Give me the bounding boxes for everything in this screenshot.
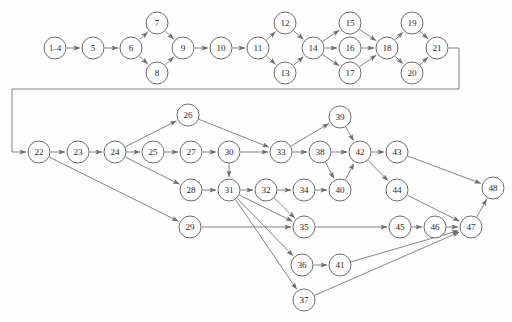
node-label-37: 37 [299, 295, 309, 305]
node-8[interactable]: 8 [146, 62, 168, 84]
node-11[interactable]: 11 [247, 37, 269, 59]
node-20[interactable]: 20 [401, 62, 423, 84]
node-17[interactable]: 17 [339, 62, 361, 84]
edge-6-to-7 [139, 32, 147, 40]
node-24[interactable]: 24 [104, 141, 126, 163]
node-1-4[interactable]: 1–4 [44, 37, 66, 59]
edge-11-to-12 [267, 32, 276, 40]
node-label-45: 45 [395, 222, 405, 232]
edge-12-to-14 [294, 31, 304, 39]
node-label-24: 24 [110, 147, 120, 157]
edge-42-to-44 [368, 160, 388, 180]
edge-15-to-18 [360, 29, 376, 40]
caption-strip [0, 310, 512, 322]
node-39[interactable]: 39 [329, 106, 351, 128]
node-label-21: 21 [432, 43, 442, 53]
node-28[interactable]: 28 [180, 179, 202, 201]
node-label-28: 28 [186, 185, 196, 195]
node-9[interactable]: 9 [172, 37, 194, 59]
node-37[interactable]: 37 [293, 289, 315, 311]
node-label-38: 38 [315, 147, 325, 157]
node-label-42: 42 [355, 147, 365, 157]
node-34[interactable]: 34 [293, 179, 315, 201]
node-label-1-4: 1–4 [49, 44, 62, 53]
node-label-15: 15 [345, 18, 355, 28]
node-label-26: 26 [183, 110, 193, 120]
node-label-32: 32 [261, 185, 271, 195]
node-13[interactable]: 13 [274, 62, 296, 84]
node-label-27: 27 [186, 147, 196, 157]
node-12[interactable]: 12 [274, 12, 296, 34]
node-45[interactable]: 45 [389, 216, 411, 238]
node-label-39: 39 [335, 112, 345, 122]
node-label-7: 7 [155, 18, 160, 28]
node-46[interactable]: 46 [424, 216, 446, 238]
node-6[interactable]: 6 [120, 37, 142, 59]
edge-19-to-21 [420, 31, 427, 38]
node-label-34: 34 [299, 185, 309, 195]
node-26[interactable]: 26 [177, 104, 199, 126]
edge-18-to-19 [395, 32, 402, 39]
node-23[interactable]: 23 [67, 141, 89, 163]
node-33[interactable]: 33 [270, 141, 292, 163]
node-label-19: 19 [407, 18, 417, 28]
node-label-11: 11 [254, 43, 263, 53]
node-10[interactable]: 10 [210, 37, 232, 59]
node-label-14: 14 [308, 43, 318, 53]
node-42[interactable]: 42 [349, 141, 371, 163]
edge-7-to-9 [165, 31, 173, 39]
node-43[interactable]: 43 [386, 141, 408, 163]
edge-8-to-9 [165, 57, 173, 65]
node-label-13: 13 [280, 68, 290, 78]
feedback-edge-path [12, 48, 459, 152]
node-label-33: 33 [276, 147, 286, 157]
node-label-44: 44 [392, 185, 402, 195]
node-label-31: 31 [224, 185, 234, 195]
graph-canvas: 1–45678910111213141516171819202122232425… [0, 0, 512, 322]
node-5[interactable]: 5 [82, 37, 104, 59]
node-14[interactable]: 14 [302, 37, 324, 59]
node-16[interactable]: 16 [339, 37, 361, 59]
node-18[interactable]: 18 [376, 37, 398, 59]
nodes-layer: 1–45678910111213141516171819202122232425… [28, 12, 504, 311]
node-40[interactable]: 40 [329, 179, 351, 201]
node-label-40: 40 [335, 185, 345, 195]
node-47[interactable]: 47 [460, 216, 482, 238]
node-27[interactable]: 27 [180, 141, 202, 163]
node-36[interactable]: 36 [291, 254, 313, 276]
edge-32-to-35 [274, 198, 294, 218]
node-25[interactable]: 25 [142, 141, 164, 163]
node-label-41: 41 [335, 260, 345, 270]
node-label-5: 5 [91, 43, 96, 53]
node-label-46: 46 [430, 222, 440, 232]
node-label-22: 22 [34, 147, 44, 157]
node-label-23: 23 [73, 147, 83, 157]
node-label-35: 35 [299, 222, 309, 232]
edge-11-to-13 [267, 56, 276, 64]
node-label-9: 9 [181, 43, 186, 53]
node-31[interactable]: 31 [218, 179, 240, 201]
node-48[interactable]: 48 [482, 177, 504, 199]
node-35[interactable]: 35 [293, 216, 315, 238]
node-label-36: 36 [297, 260, 307, 270]
node-label-30: 30 [224, 147, 234, 157]
edge-13-to-14 [294, 57, 304, 65]
node-19[interactable]: 19 [401, 12, 423, 34]
node-label-47: 47 [466, 222, 476, 232]
node-label-6: 6 [129, 43, 134, 53]
node-38[interactable]: 38 [309, 141, 331, 163]
node-label-10: 10 [216, 43, 226, 53]
node-22[interactable]: 22 [28, 141, 50, 163]
node-32[interactable]: 32 [255, 179, 277, 201]
node-44[interactable]: 44 [386, 179, 408, 201]
node-label-29: 29 [185, 222, 195, 232]
node-label-43: 43 [392, 147, 402, 157]
node-7[interactable]: 7 [146, 12, 168, 34]
node-29[interactable]: 29 [179, 216, 201, 238]
edge-17-to-18 [360, 55, 376, 66]
node-30[interactable]: 30 [218, 141, 240, 163]
node-41[interactable]: 41 [329, 254, 351, 276]
node-15[interactable]: 15 [339, 12, 361, 34]
node-label-18: 18 [382, 43, 392, 53]
node-21[interactable]: 21 [426, 37, 448, 59]
